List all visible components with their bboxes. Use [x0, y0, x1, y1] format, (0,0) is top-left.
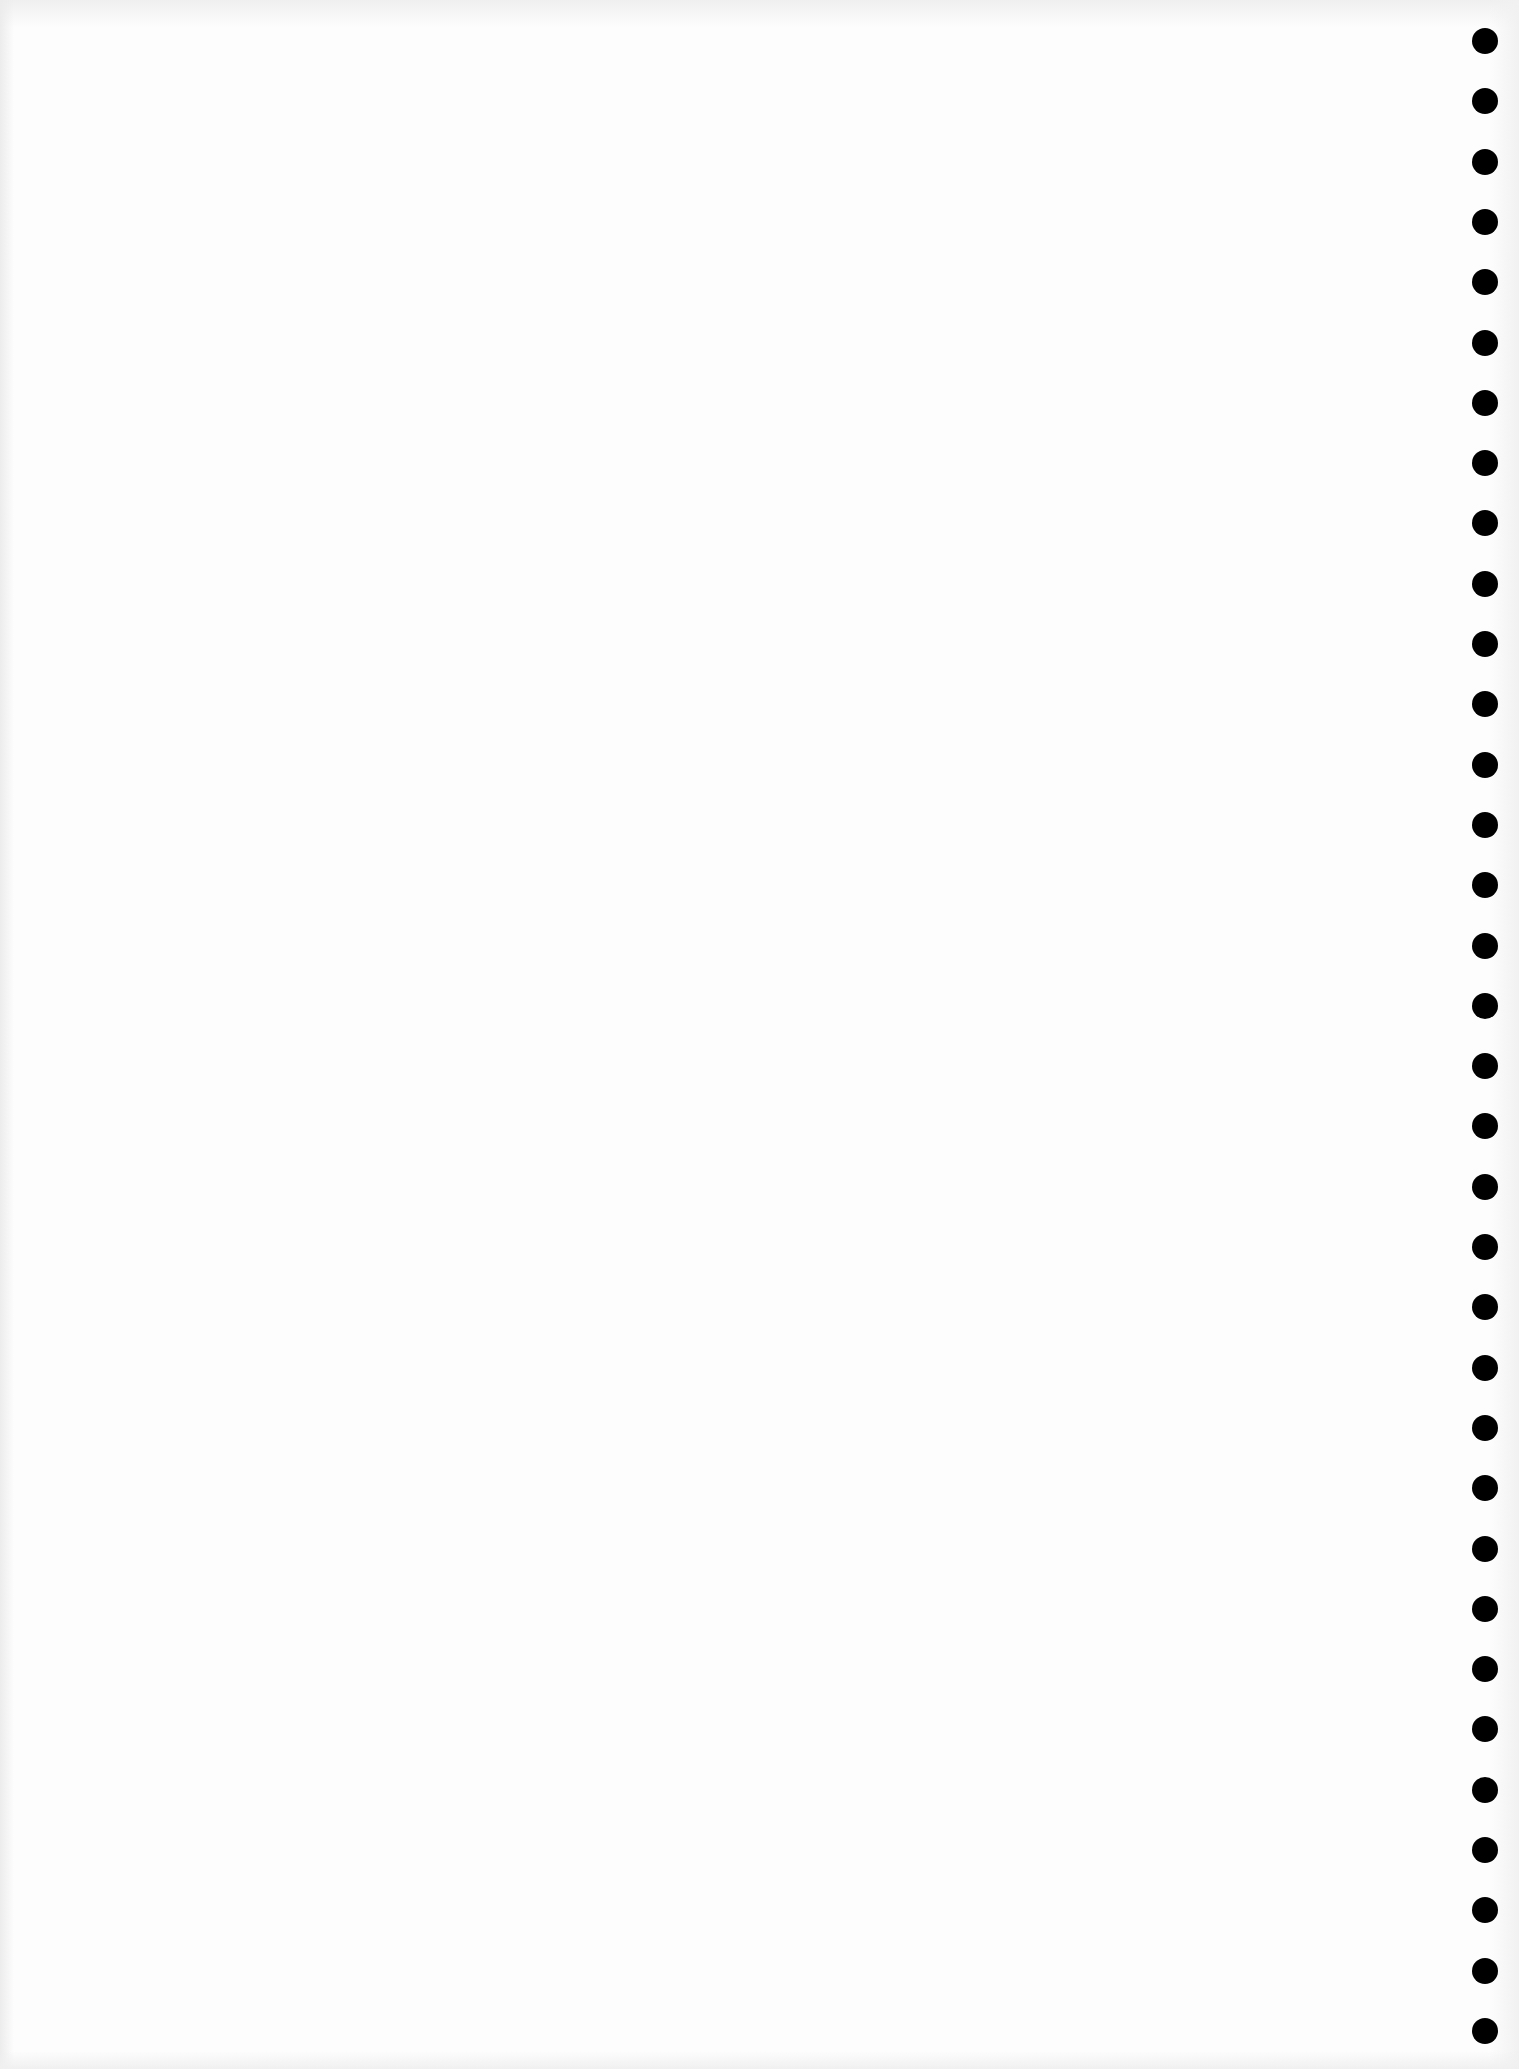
- punch-hole-icon: [1472, 631, 1498, 657]
- punch-hole-icon: [1472, 993, 1498, 1019]
- punch-hole-icon: [1472, 1475, 1498, 1501]
- scanned-page: [0, 0, 1519, 2069]
- punch-hole-icon: [1472, 691, 1498, 717]
- punch-hole-icon: [1472, 1234, 1498, 1260]
- punch-hole-icon: [1472, 1716, 1498, 1742]
- punch-hole-icon: [1472, 933, 1498, 959]
- punch-hole-icon: [1472, 88, 1498, 114]
- punch-hole-icon: [1472, 28, 1498, 54]
- punch-hole-icon: [1472, 330, 1498, 356]
- punch-hole-icon: [1472, 571, 1498, 597]
- punch-hole-icon: [1472, 390, 1498, 416]
- punch-hole-icon: [1472, 1656, 1498, 1682]
- scan-shadow-left: [0, 0, 14, 2069]
- punch-hole-icon: [1472, 812, 1498, 838]
- punch-hole-icon: [1472, 1536, 1498, 1562]
- punch-hole-column: [1472, 0, 1502, 2069]
- punch-hole-icon: [1472, 1174, 1498, 1200]
- punch-hole-icon: [1472, 1777, 1498, 1803]
- punch-hole-icon: [1472, 1897, 1498, 1923]
- punch-hole-icon: [1472, 872, 1498, 898]
- scan-shadow-bottom: [0, 2051, 1519, 2069]
- punch-hole-icon: [1472, 209, 1498, 235]
- punch-hole-icon: [1472, 1837, 1498, 1863]
- punch-hole-icon: [1472, 2018, 1498, 2044]
- punch-hole-icon: [1472, 1113, 1498, 1139]
- punch-hole-icon: [1472, 1294, 1498, 1320]
- punch-hole-icon: [1472, 450, 1498, 476]
- punch-hole-icon: [1472, 1415, 1498, 1441]
- punch-hole-icon: [1472, 1355, 1498, 1381]
- punch-hole-icon: [1472, 752, 1498, 778]
- punch-hole-icon: [1472, 1053, 1498, 1079]
- punch-hole-icon: [1472, 1958, 1498, 1984]
- scan-shadow-top: [0, 0, 1519, 28]
- punch-hole-icon: [1472, 510, 1498, 536]
- punch-hole-icon: [1472, 149, 1498, 175]
- punch-hole-icon: [1472, 1596, 1498, 1622]
- punch-hole-icon: [1472, 269, 1498, 295]
